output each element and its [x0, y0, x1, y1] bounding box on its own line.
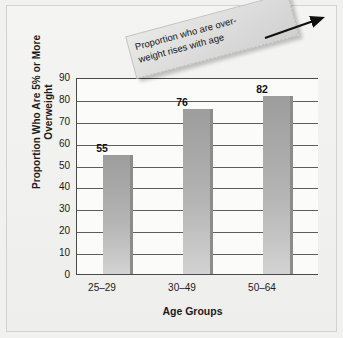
y-tick-label-60: 60	[30, 138, 70, 149]
y-tick-label-30: 30	[30, 203, 70, 214]
bar-value-50-64: 82	[234, 83, 290, 95]
x-tick-label-25-29: 25–29	[67, 282, 137, 293]
bar-25-29[interactable]	[103, 155, 133, 274]
bar-value-25-29: 55	[74, 142, 130, 154]
x-tick-label-30-49: 30–49	[147, 282, 217, 293]
y-tick-label-90: 90	[30, 72, 70, 83]
x-axis-title: Age Groups	[60, 305, 325, 317]
y-tick-label-80: 80	[30, 94, 70, 105]
bar-30-49[interactable]	[183, 109, 213, 274]
y-tick-label-0: 0	[30, 269, 70, 280]
y-tick-label-70: 70	[30, 116, 70, 127]
bar-50-64[interactable]	[263, 96, 293, 274]
x-tick-label-50-64: 50–64	[227, 282, 297, 293]
y-tick-label-20: 20	[30, 225, 70, 236]
y-tick-label-50: 50	[30, 160, 70, 171]
y-tick-label-40: 40	[30, 181, 70, 192]
y-tick-label-10: 10	[30, 247, 70, 258]
chart-figure: Proportion Who Are 5% or More Overweight…	[0, 0, 343, 338]
bar-value-30-49: 76	[154, 96, 210, 108]
